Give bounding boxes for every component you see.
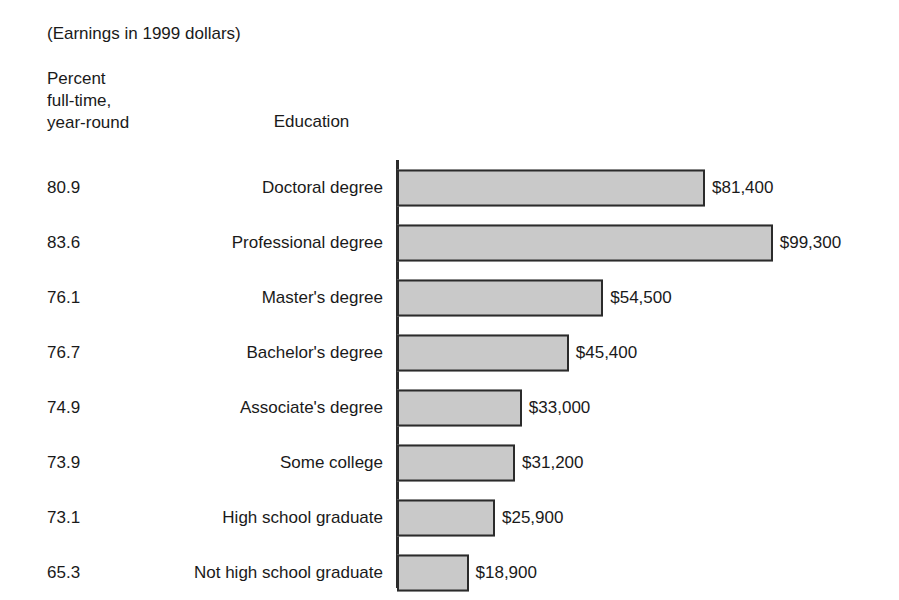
row-bar-group: $31,200: [397, 444, 584, 481]
chart-row: 74.9Associate's degree$33,000: [0, 380, 899, 435]
bar-value-label: $54,500: [610, 288, 671, 308]
row-percent-value: 80.9: [47, 178, 80, 198]
row-percent-value: 76.1: [47, 288, 80, 308]
chart-row: 83.6Professional degree$99,300: [0, 215, 899, 270]
chart-rows: 80.9Doctoral degree$81,40083.6Profession…: [0, 160, 899, 600]
bar-value-label: $99,300: [780, 233, 841, 253]
bar-value-label: $25,900: [502, 508, 563, 528]
bar: [397, 389, 522, 426]
bar: [397, 169, 705, 206]
row-percent-value: 74.9: [47, 398, 80, 418]
row-bar-group: $45,400: [397, 334, 637, 371]
row-percent-value: 73.9: [47, 453, 80, 473]
bar: [397, 444, 515, 481]
row-percent-value: 76.7: [47, 343, 80, 363]
chart-row: 76.7Bachelor's degree$45,400: [0, 325, 899, 380]
bar: [397, 224, 773, 261]
bar-value-label: $45,400: [576, 343, 637, 363]
chart-row: 73.9Some college$31,200: [0, 435, 899, 490]
education-column-header: Education: [240, 112, 383, 132]
row-category-label: Some college: [120, 453, 383, 473]
row-percent-value: 83.6: [47, 233, 80, 253]
row-category-label: Doctoral degree: [120, 178, 383, 198]
bar-value-label: $33,000: [529, 398, 590, 418]
row-bar-group: $81,400: [397, 169, 773, 206]
row-percent-value: 73.1: [47, 508, 80, 528]
chart-row: 73.1High school graduate$25,900: [0, 490, 899, 545]
row-percent-value: 65.3: [47, 563, 80, 583]
row-category-label: Master's degree: [120, 288, 383, 308]
row-category-label: Not high school graduate: [120, 563, 383, 583]
row-category-label: Associate's degree: [120, 398, 383, 418]
percent-header-line-3: year-round: [47, 112, 129, 134]
bar: [397, 499, 495, 536]
percent-column-header: Percent full-time, year-round: [47, 68, 129, 134]
percent-header-line-1: Percent: [47, 68, 129, 90]
row-bar-group: $25,900: [397, 499, 563, 536]
bar: [397, 334, 569, 371]
chart-row: 65.3Not high school graduate$18,900: [0, 545, 899, 600]
row-bar-group: $18,900: [397, 554, 537, 591]
row-bar-group: $99,300: [397, 224, 841, 261]
row-category-label: High school graduate: [120, 508, 383, 528]
earnings-units-note: (Earnings in 1999 dollars): [47, 24, 241, 44]
bar-value-label: $81,400: [712, 178, 773, 198]
row-category-label: Professional degree: [120, 233, 383, 253]
bar: [397, 279, 603, 316]
bar-value-label: $18,900: [476, 563, 537, 583]
bar: [397, 554, 469, 591]
earnings-by-education-chart: (Earnings in 1999 dollars) Percent full-…: [0, 0, 899, 600]
chart-row: 76.1Master's degree$54,500: [0, 270, 899, 325]
bar-value-label: $31,200: [522, 453, 583, 473]
row-category-label: Bachelor's degree: [120, 343, 383, 363]
row-bar-group: $54,500: [397, 279, 672, 316]
chart-row: 80.9Doctoral degree$81,400: [0, 160, 899, 215]
percent-header-line-2: full-time,: [47, 90, 129, 112]
row-bar-group: $33,000: [397, 389, 590, 426]
